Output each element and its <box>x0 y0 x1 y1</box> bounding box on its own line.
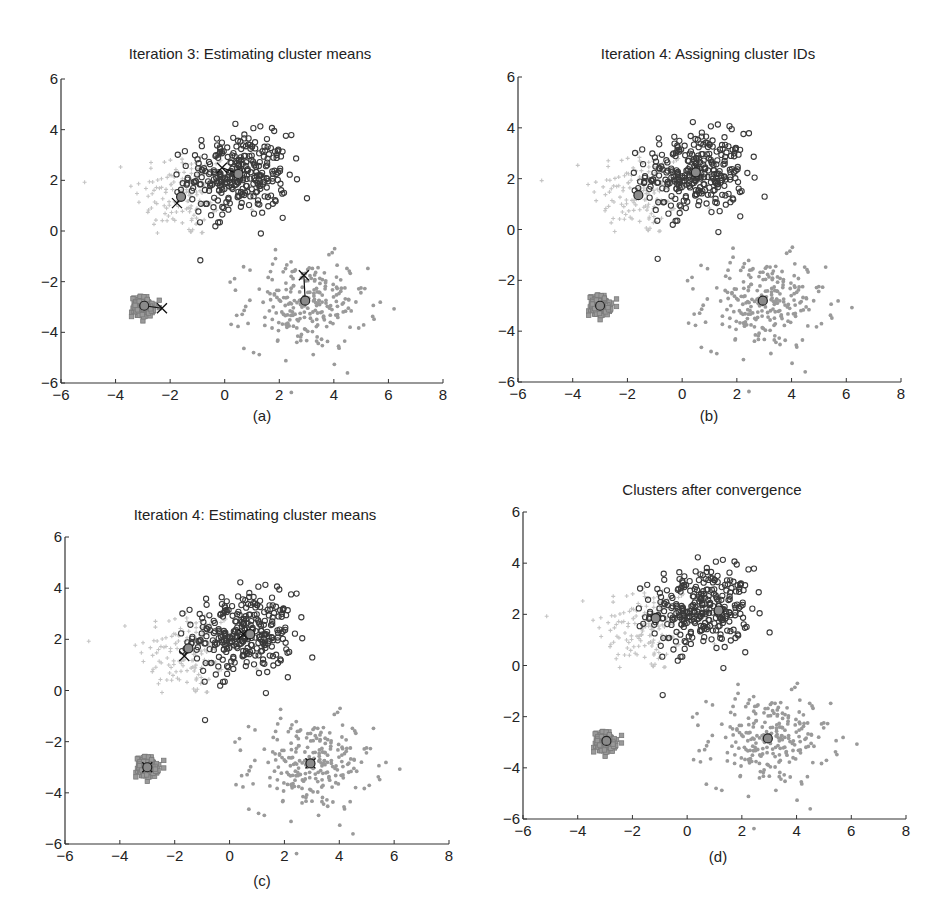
x-tick-label: 8 <box>902 822 910 839</box>
centroid-marker <box>306 759 315 768</box>
panel-d-plot: −6−4−202468−6−4−20246 <box>503 503 910 839</box>
y-tick-label: 0 <box>507 221 515 238</box>
y-tick-label: 6 <box>50 70 58 87</box>
x-tick-label: 4 <box>335 847 343 864</box>
y-tick-label: −4 <box>45 784 62 801</box>
y-tick-label: 0 <box>50 222 58 239</box>
y-tick-label: −6 <box>41 374 58 391</box>
y-tick-label: −4 <box>498 322 515 339</box>
x-tick-label: 6 <box>842 385 850 402</box>
x-tick-label: 8 <box>439 386 447 403</box>
x-tick-label: 2 <box>280 847 288 864</box>
panel-c-plot: −6−4−202468−6−4−20246 <box>45 528 453 864</box>
y-tick-label: −6 <box>503 810 520 827</box>
y-tick-label: 4 <box>507 119 515 136</box>
centroid-marker <box>143 763 152 772</box>
kmeans-figure: Iteration 3: Estimating cluster means −6… <box>0 0 946 924</box>
y-tick-label: 6 <box>512 503 520 520</box>
panel-c-label: (c) <box>253 872 271 889</box>
x-tick-label: 8 <box>445 847 453 864</box>
x-tick-label: 6 <box>847 822 855 839</box>
y-tick-label: 2 <box>512 605 520 622</box>
centroid-marker <box>596 301 605 310</box>
y-tick-label: −2 <box>45 733 62 750</box>
x-tick-label: 2 <box>738 822 746 839</box>
x-tick-label: 0 <box>225 847 233 864</box>
x-tick-label: 2 <box>733 385 741 402</box>
panel-a: Iteration 3: Estimating cluster means −6… <box>41 45 447 424</box>
panel-d: Clusters after convergence −6−4−202468−6… <box>503 481 910 865</box>
x-tick-label: −4 <box>111 847 128 864</box>
y-tick-label: 2 <box>54 630 62 647</box>
centroid-marker <box>758 296 767 305</box>
data-points <box>87 580 402 856</box>
y-tick-label: −2 <box>41 273 58 290</box>
centroid-marker <box>234 170 243 179</box>
axes: −6−4−202468−6−4−20246 <box>41 70 447 403</box>
y-tick-label: 4 <box>512 554 520 571</box>
data-points <box>545 555 859 831</box>
centroid-marker <box>691 168 700 177</box>
x-tick-label: −4 <box>569 822 586 839</box>
panel-c: Iteration 4: Estimating cluster means −6… <box>45 506 453 889</box>
y-tick-label: 0 <box>54 682 62 699</box>
axes: −6−4−202468−6−4−20246 <box>45 528 453 864</box>
x-tick-label: −2 <box>624 822 641 839</box>
y-tick-label: 4 <box>50 121 58 138</box>
data-points <box>83 121 396 394</box>
axes: −6−4−202468−6−4−20246 <box>503 503 910 839</box>
panel-c-title: Iteration 4: Estimating cluster means <box>134 506 377 523</box>
centroid-marker <box>714 606 723 615</box>
y-tick-label: −4 <box>41 323 58 340</box>
x-tick-label: 4 <box>787 385 795 402</box>
panel-b-plot: −6−4−202468−6−4−20246 <box>498 68 905 402</box>
y-tick-label: 2 <box>507 170 515 187</box>
x-tick-label: −4 <box>107 386 124 403</box>
x-tick-label: 4 <box>792 822 800 839</box>
y-tick-label: 2 <box>50 171 58 188</box>
x-tick-label: −4 <box>564 385 581 402</box>
centroid-marker <box>140 301 149 310</box>
panel-b: Iteration 4: Assigning cluster IDs −6−4−… <box>498 45 905 424</box>
x-tick-label: −2 <box>166 847 183 864</box>
centroid-marker <box>763 734 772 743</box>
centroid-marker <box>634 191 643 200</box>
centroid-marker <box>177 192 186 201</box>
y-tick-label: 6 <box>54 528 62 545</box>
x-tick-label: −2 <box>162 386 179 403</box>
y-tick-label: −6 <box>498 373 515 390</box>
centroid-marker <box>184 644 193 653</box>
data-points <box>540 119 854 393</box>
y-tick-label: −2 <box>503 708 520 725</box>
panel-d-title: Clusters after convergence <box>622 481 801 498</box>
panel-a-label: (a) <box>253 407 271 424</box>
y-tick-label: 4 <box>54 579 62 596</box>
x-tick-label: 0 <box>221 386 229 403</box>
y-tick-label: −2 <box>498 271 515 288</box>
centroid-marker <box>651 614 660 623</box>
panel-a-plot: −6−4−202468−6−4−20246 <box>41 70 447 403</box>
x-tick-label: 8 <box>897 385 905 402</box>
y-tick-label: −6 <box>45 835 62 852</box>
panel-a-title: Iteration 3: Estimating cluster means <box>129 45 372 62</box>
x-tick-label: −2 <box>619 385 636 402</box>
y-tick-label: 0 <box>512 657 520 674</box>
panel-b-title: Iteration 4: Assigning cluster IDs <box>601 45 815 62</box>
x-tick-label: 0 <box>683 822 691 839</box>
y-tick-label: 6 <box>507 68 515 85</box>
panel-b-label: (b) <box>700 407 718 424</box>
y-tick-label: −4 <box>503 759 520 776</box>
x-tick-label: 2 <box>275 386 283 403</box>
x-tick-label: 6 <box>390 847 398 864</box>
x-tick-label: 6 <box>384 386 392 403</box>
x-tick-label: 4 <box>330 386 338 403</box>
axes: −6−4−202468−6−4−20246 <box>498 68 905 402</box>
centroid-marker <box>301 296 310 305</box>
panel-d-label: (d) <box>709 848 727 865</box>
x-tick-label: 0 <box>678 385 686 402</box>
centroid-marker <box>246 630 255 639</box>
centroid-marker <box>602 736 611 745</box>
